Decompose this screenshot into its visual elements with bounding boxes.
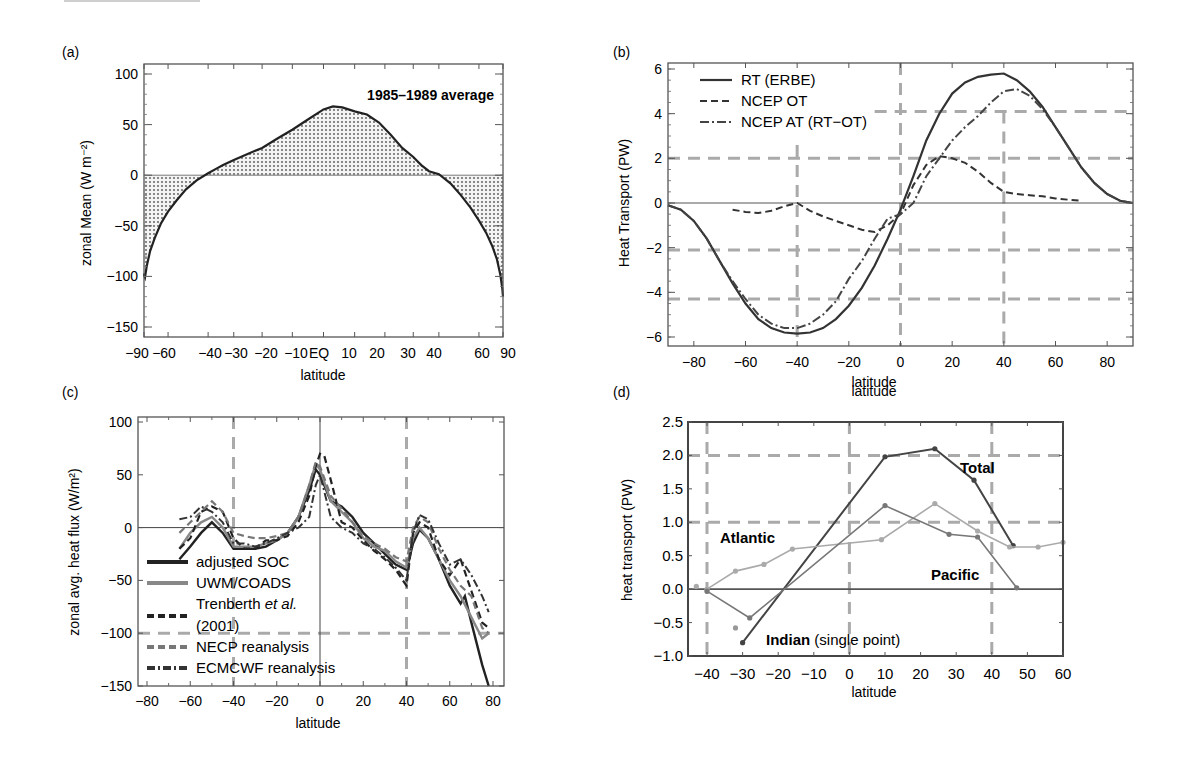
y-tick-label: −0.5 bbox=[653, 614, 683, 631]
panel-d-ocean-basin-transport: (d) −40−30−20−1001020304050602.52.01.51.… bbox=[613, 383, 1071, 700]
legend-entry: ECMCWF reanalysis bbox=[196, 659, 335, 676]
x-axis-label: latitude bbox=[851, 684, 896, 700]
panel-a-zonal-mean-radiation: (a) −90−60−40−30−20−10EQ1020304060901005… bbox=[62, 44, 516, 383]
x-tick-label: −40 bbox=[198, 345, 222, 361]
x-tick-label: 20 bbox=[944, 354, 960, 370]
x-tick-label: 80 bbox=[485, 693, 501, 709]
x-tick-label: −80 bbox=[135, 693, 159, 709]
x-axis-label: latitude bbox=[295, 715, 340, 731]
panel-label: (d) bbox=[613, 384, 630, 400]
y-tick-label: 2.5 bbox=[662, 413, 683, 430]
x-tick-label: −90 bbox=[125, 345, 149, 361]
panel-c-heat-flux: (c) −80−60−40−20020406080100500−50−100−1… bbox=[62, 384, 504, 731]
x-tick-label: 0 bbox=[897, 354, 905, 370]
y-tick-label: −100 bbox=[100, 625, 132, 641]
y-tick-label: 0.5 bbox=[662, 547, 683, 564]
reference-lines bbox=[668, 63, 1133, 346]
legend: adjusted SOCUWM/COADSTrenberth et al.(20… bbox=[147, 553, 335, 676]
x-tick-label: 50 bbox=[1019, 665, 1036, 682]
x-tick-label: −30 bbox=[730, 665, 755, 682]
y-tick-label: 0 bbox=[130, 167, 138, 183]
x-tick-label: −10 bbox=[284, 345, 308, 361]
x-tick-label: −60 bbox=[152, 345, 176, 361]
y-tick-label: −6 bbox=[646, 329, 662, 345]
y-tick-label: 100 bbox=[115, 66, 139, 82]
y-tick-label: −1.0 bbox=[653, 647, 683, 664]
axes-frame bbox=[144, 64, 503, 337]
figure-canvas: (a) −90−60−40−30−20−10EQ1020304060901005… bbox=[0, 0, 1202, 764]
x-tick-label: EQ bbox=[309, 345, 329, 361]
legend: RT (ERBE)NCEP OTNCEP AT (RT−OT) bbox=[700, 71, 867, 130]
x-tick-label: 20 bbox=[912, 665, 929, 682]
x-tick-label: 0 bbox=[316, 693, 324, 709]
annotation-total: Total bbox=[960, 459, 995, 476]
x-tick-label: −60 bbox=[734, 354, 758, 370]
annotation-pacific: Pacific bbox=[931, 566, 979, 583]
legend-entry: NECP reanalysis bbox=[196, 638, 309, 655]
x-tick-label: 10 bbox=[877, 665, 894, 682]
x-tick-label: 60 bbox=[442, 693, 458, 709]
y-axis-label: heat transport (PW) bbox=[619, 479, 635, 601]
y-tick-label: 6 bbox=[654, 61, 662, 77]
x-tick-label: −40 bbox=[785, 354, 809, 370]
reference-lines bbox=[138, 417, 504, 686]
y-tick-label: −2 bbox=[646, 240, 662, 256]
y-tick-label: 100 bbox=[109, 414, 133, 430]
x-tick-label: 40 bbox=[996, 354, 1012, 370]
panel-label: (a) bbox=[62, 44, 79, 60]
y-tick-label: 50 bbox=[122, 117, 138, 133]
chart-annotation: 1985–1989 average bbox=[367, 87, 494, 103]
y-tick-label: 4 bbox=[654, 106, 662, 122]
x-tick-label: −20 bbox=[265, 693, 289, 709]
x-tick-label: 60 bbox=[1055, 665, 1072, 682]
annotation-indian: Indian (single point) bbox=[766, 631, 900, 648]
legend-entry: Trenberth et al. bbox=[196, 595, 297, 612]
y-tick-label: 1.0 bbox=[662, 513, 683, 530]
annotation-atlantic: Atlantic bbox=[720, 529, 775, 546]
x-tick-label: 40 bbox=[399, 693, 415, 709]
x-tick-label: −20 bbox=[765, 665, 790, 682]
x-tick-label: 60 bbox=[1048, 354, 1064, 370]
y-tick-label: −150 bbox=[106, 319, 138, 335]
y-axis-label: zonal Mean (W m⁻²) bbox=[78, 140, 94, 266]
x-tick-label: 30 bbox=[400, 345, 416, 361]
x-tick-label: 20 bbox=[355, 693, 371, 709]
y-tick-label: −4 bbox=[646, 284, 662, 300]
x-tick-label: −30 bbox=[224, 345, 248, 361]
x-tick-label: 60 bbox=[474, 345, 490, 361]
x-tick-label: 90 bbox=[500, 345, 516, 361]
x-tick-label: 10 bbox=[341, 345, 357, 361]
legend-entry: adjusted SOC bbox=[196, 553, 290, 570]
panel-label: (c) bbox=[62, 384, 78, 400]
top-axis-label: latitude bbox=[851, 383, 896, 399]
legend-entry: RT (ERBE) bbox=[741, 71, 815, 88]
y-tick-label: −50 bbox=[108, 572, 132, 588]
y-tick-label: 2 bbox=[654, 150, 662, 166]
y-tick-label: 50 bbox=[116, 467, 132, 483]
x-tick-label: 80 bbox=[1099, 354, 1115, 370]
y-axis-label: zonal avg. heat flux (W/m²) bbox=[66, 468, 82, 635]
y-tick-label: −150 bbox=[100, 678, 132, 694]
axes-frame bbox=[138, 417, 504, 686]
y-axis-label: Heat Transport (PW) bbox=[616, 139, 632, 267]
panel-label: (b) bbox=[613, 44, 630, 60]
x-axis-label: latitude bbox=[300, 367, 345, 383]
x-tick-label: 0 bbox=[845, 665, 853, 682]
y-tick-label: 0 bbox=[654, 195, 662, 211]
x-tick-label: −20 bbox=[837, 354, 861, 370]
y-tick-label: 0.0 bbox=[662, 580, 683, 597]
x-tick-label: −20 bbox=[254, 345, 278, 361]
x-tick-label: −60 bbox=[178, 693, 202, 709]
y-tick-label: −100 bbox=[106, 268, 138, 284]
legend-entry: (2001) bbox=[196, 617, 239, 634]
x-tick-label: 20 bbox=[369, 345, 385, 361]
legend-entry: UWM/COADS bbox=[196, 574, 291, 591]
x-tick-label: −80 bbox=[682, 354, 706, 370]
x-tick-label: −40 bbox=[694, 665, 719, 682]
stippled-area bbox=[144, 106, 503, 296]
y-tick-label: 0 bbox=[124, 520, 132, 536]
axis-ticks: −80−60−40−200204060806420−2−4−6 bbox=[646, 61, 1133, 370]
x-tick-label: −10 bbox=[801, 665, 826, 682]
y-tick-label: 1.5 bbox=[662, 480, 683, 497]
panel-b-heat-transport: (b) −80−60−40−200204060806420−2−4−6 RT (… bbox=[613, 44, 1133, 390]
